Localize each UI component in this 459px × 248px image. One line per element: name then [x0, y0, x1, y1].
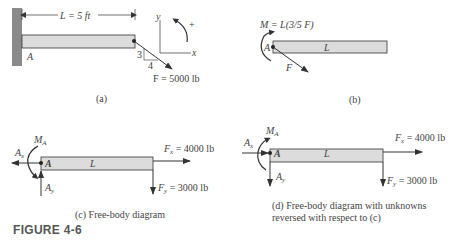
- slope-rise: 3: [137, 49, 142, 60]
- ay-label: Ay: [275, 171, 286, 184]
- fx-label: Fx = 4000 lb: [163, 143, 214, 156]
- beam: [22, 35, 135, 48]
- fy-label: Fy = 3000 lb: [386, 175, 437, 188]
- x-axis-label: x: [191, 47, 197, 58]
- point-a: [268, 151, 272, 155]
- caption-d-line1: (d) Free-body diagram with unknowns: [272, 200, 427, 212]
- caption-a: (a): [96, 93, 107, 105]
- moment-sign: +: [189, 19, 195, 30]
- ax-label: Ax: [243, 137, 254, 150]
- point-a-label: A: [44, 158, 52, 169]
- force-label: F: [285, 62, 293, 73]
- y-axis-label: y: [155, 11, 161, 22]
- beam: [273, 41, 387, 53]
- beam-label: L: [323, 42, 330, 53]
- beam-label: L: [323, 148, 330, 159]
- force-label: F = 5000 lb: [153, 73, 199, 84]
- moment-label: M = L(3/5 F): [259, 19, 314, 31]
- caption-d-line2: reversed with respect to (c): [272, 212, 381, 224]
- panel-a: L = 5 ft A 3 4 F = 5000 lb y x + (a): [12, 8, 199, 105]
- point-a-label: A: [26, 51, 34, 62]
- slope-run: 4: [148, 60, 153, 71]
- moment-label: MA: [265, 125, 279, 138]
- point-a-label: A: [273, 148, 281, 159]
- caption-c: (c) Free-body diagram: [75, 209, 165, 221]
- fy-label: Fy = 3000 lb: [157, 182, 208, 195]
- fx-label: Fx = 4000 lb: [394, 132, 445, 145]
- moment-label: MA: [33, 134, 47, 147]
- ay-label: Ay: [44, 182, 55, 195]
- point-a: [39, 161, 43, 165]
- caption-b: (b): [349, 94, 361, 106]
- moment-sign-arrow: [175, 20, 187, 42]
- ax-label: Ax: [14, 147, 25, 160]
- point-a-label: A: [263, 42, 271, 53]
- moment-arrow: [28, 146, 38, 177]
- figure-label: FIGURE 4-6: [13, 223, 82, 237]
- moment-arrow: [258, 139, 268, 170]
- beam-label: L: [89, 158, 96, 169]
- panel-d: Ax MA A Ay L Fx = 4000 lb Fy = 3000 lb (…: [242, 125, 445, 224]
- wall: [12, 8, 22, 66]
- panel-b: M = L(3/5 F) A F L (b): [259, 19, 387, 106]
- figure-canvas: L = 5 ft A 3 4 F = 5000 lb y x + (a) M =…: [0, 0, 459, 248]
- beam: [41, 157, 153, 170]
- panel-c: Ax MA A Ay L Fx = 4000 lb Fy = 3000 lb (…: [12, 134, 214, 221]
- dimension-label: L = 5 ft: [59, 10, 90, 21]
